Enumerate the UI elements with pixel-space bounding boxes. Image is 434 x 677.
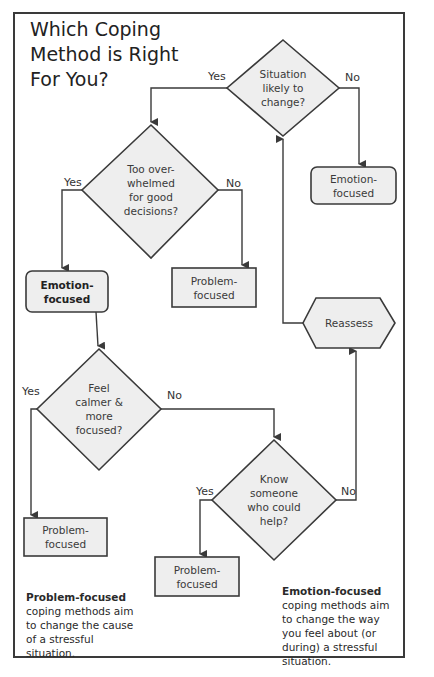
label-overwhelmed-yes: Yes bbox=[64, 176, 82, 189]
label-situation-yes: Yes bbox=[208, 70, 226, 83]
decision-situation-text: Situation likely to change? bbox=[243, 58, 323, 118]
outcome-emotion-top-text: Emotion- focused bbox=[311, 167, 396, 204]
edge-overwhelmed-no bbox=[218, 190, 242, 265]
label-calmer-no: No bbox=[167, 389, 182, 402]
edge-overwhelmed-yes bbox=[62, 190, 82, 268]
outcome-problem-left-text: Problem- focused bbox=[24, 518, 107, 556]
page-title: Which Coping Method is Right For You? bbox=[30, 17, 179, 92]
note-problem-desc: coping methods aim to change the cause o… bbox=[26, 605, 133, 659]
edge-know-yes bbox=[200, 500, 212, 554]
decision-know-text: Know someone who could help? bbox=[234, 468, 314, 532]
process-reassess-text: Reassess bbox=[303, 298, 395, 348]
label-calmer-yes: Yes bbox=[22, 385, 40, 398]
label-overwhelmed-no: No bbox=[226, 177, 241, 190]
label-know-no: No bbox=[341, 485, 356, 498]
note-emotion-desc: coping methods aim to change the way you… bbox=[282, 599, 389, 667]
edge-calmer-yes bbox=[31, 409, 37, 515]
decision-calmer-text: Feel calmer & more focused? bbox=[59, 377, 139, 441]
edge-know-no bbox=[336, 351, 356, 500]
decision-overwhelmed-text: Too over- whelmed for good decisions? bbox=[111, 158, 191, 222]
edge-emotion-to-calmer bbox=[96, 312, 98, 346]
note-problem-term: Problem-focused bbox=[26, 591, 126, 603]
edge-situation-yes bbox=[151, 88, 227, 122]
outcome-problem-mid-text: Problem- focused bbox=[172, 268, 256, 307]
note-emotion-term: Emotion-focused bbox=[282, 585, 381, 597]
outcome-problem-bottom-text: Problem- focused bbox=[155, 557, 239, 596]
edge-reassess-loop bbox=[283, 139, 303, 323]
note-problem-focused: Problem-focused coping methods aim to ch… bbox=[26, 590, 136, 660]
label-know-yes: Yes bbox=[196, 485, 214, 498]
edge-situation-no bbox=[339, 88, 359, 164]
label-situation-no: No bbox=[345, 71, 360, 84]
note-emotion-focused: Emotion-focused coping methods aim to ch… bbox=[282, 584, 400, 668]
outcome-emotion-left-text: Emotion- focused bbox=[26, 271, 108, 312]
edge-calmer-no bbox=[161, 409, 274, 437]
